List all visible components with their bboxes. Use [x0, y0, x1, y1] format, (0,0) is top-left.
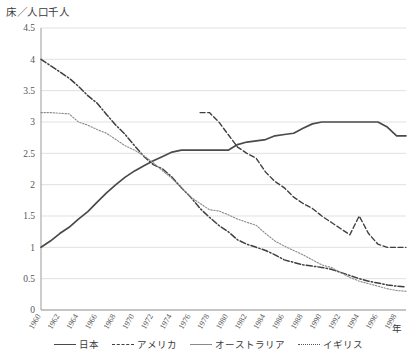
x-axis-tick-label: 1980 [214, 313, 230, 331]
plot-area: 00.511.522.533.544.519601962196419661968… [0, 0, 417, 355]
series-line-3 [200, 113, 406, 248]
y-axis-tick-label: 0.5 [23, 274, 35, 284]
y-axis-tick-label: 2 [30, 180, 35, 190]
legend-swatch-thin-icon [190, 344, 212, 345]
x-axis-tick-label: 1970 [121, 313, 137, 331]
x-axis-tick-label: 1962 [46, 313, 62, 331]
x-axis-tick-label: 1990 [308, 313, 324, 331]
x-axis-title: 年 [392, 323, 402, 334]
series-line-2 [41, 113, 406, 292]
x-axis-tick-label: 1988 [289, 313, 305, 331]
line-chart: 床／人口千人 00.511.522.533.544.51960196219641… [0, 0, 417, 355]
x-axis-tick-label: 1974 [158, 313, 174, 331]
y-axis-tick-label: 1.5 [23, 211, 35, 221]
series-line-1 [41, 59, 406, 286]
y-axis-tick-label: 4 [30, 55, 35, 65]
x-axis-tick-label: 1986 [270, 313, 286, 331]
legend-label-japan: 日本 [79, 337, 99, 351]
x-axis-tick-label: 1978 [195, 313, 211, 331]
legend-item-australia: オーストラリア [190, 337, 285, 351]
y-axis-tick-label: 2.5 [23, 149, 35, 159]
legend-swatch-solid-icon [54, 344, 76, 345]
x-axis-tick-label: 1964 [64, 313, 80, 331]
x-axis-tick-label: 1976 [177, 313, 193, 331]
chart-canvas: 00.511.522.533.544.519601962196419661968… [0, 0, 417, 355]
legend-swatch-dotted-icon [298, 344, 320, 345]
legend-label-uk: イギリス [323, 337, 363, 351]
x-axis-tick-label: 1966 [83, 313, 99, 331]
x-axis-tick-label: 1968 [102, 313, 118, 331]
x-axis-tick-label: 1982 [233, 313, 249, 331]
legend-label-australia: オーストラリア [215, 337, 285, 351]
x-axis-tick-label: 1996 [364, 313, 380, 331]
y-axis-tick-label: 1 [30, 243, 35, 253]
legend-swatch-dashdot-icon [112, 344, 134, 345]
x-axis-tick-label: 1994 [345, 313, 361, 331]
y-axis-tick-label: 3 [30, 117, 35, 127]
x-axis-tick-label: 1984 [252, 313, 268, 331]
x-axis-tick-label: 1992 [326, 313, 342, 331]
y-axis-tick-label: 3.5 [23, 86, 35, 96]
legend-item-america: アメリカ [112, 337, 177, 351]
y-axis-tick-label: 4.5 [23, 23, 35, 33]
legend-label-america: アメリカ [137, 337, 177, 351]
legend-item-japan: 日本 [54, 337, 99, 351]
chart-legend: 日本 アメリカ オーストラリア イギリス [0, 337, 417, 351]
legend-item-uk: イギリス [298, 337, 363, 351]
x-axis-tick-label: 1972 [139, 313, 155, 331]
